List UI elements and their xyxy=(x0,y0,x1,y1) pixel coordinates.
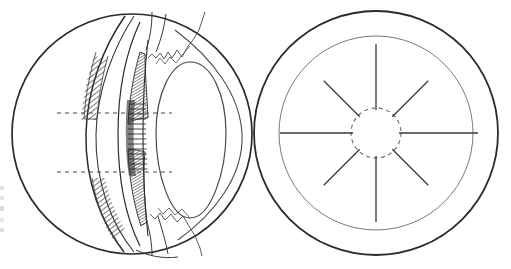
right-panel-frontal-lens xyxy=(254,11,498,255)
suspensory-attachment-inferior xyxy=(150,213,202,256)
cropped-label-fragment-5 xyxy=(0,228,4,232)
vitreous-boundary-arc xyxy=(175,30,242,240)
lens-outline xyxy=(156,62,226,218)
superior-strap-outer xyxy=(146,12,152,50)
spoke-135deg xyxy=(324,81,360,117)
spoke-225deg xyxy=(324,149,360,185)
radial-spokes xyxy=(280,44,478,222)
spoke-315deg xyxy=(392,149,428,185)
cropped-label-fragment-2 xyxy=(0,196,4,200)
figure-root xyxy=(0,0,511,269)
cropped-label-fragment-1 xyxy=(0,186,4,190)
spoke-45deg xyxy=(392,81,428,117)
left-panel-sagittal-eye xyxy=(12,12,252,258)
cropped-label-fragment-3 xyxy=(0,206,4,211)
inferior-strap-inner xyxy=(158,216,168,254)
superior-strap-inner xyxy=(156,14,166,52)
cropped-label-fragment-4 xyxy=(0,218,4,222)
eye-anatomy-diagram xyxy=(0,0,511,269)
